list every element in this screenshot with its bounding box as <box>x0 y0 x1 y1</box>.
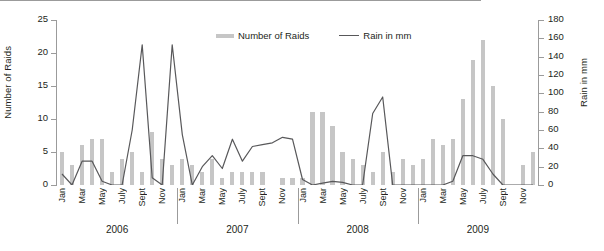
right-tick-label: 160 <box>548 31 574 42</box>
month-tick-label: Sept <box>498 188 508 207</box>
right-tick-label: 100 <box>548 86 574 97</box>
left-tick-label: 10 <box>20 112 48 123</box>
right-axis-title: Rain in mm <box>578 58 589 107</box>
month-tick-label: May <box>338 188 348 205</box>
month-tick-label: Mar <box>438 188 448 204</box>
line-series-rain-in-mm <box>57 20 538 185</box>
right-tick-label: 40 <box>548 141 574 152</box>
right-tick <box>539 130 544 131</box>
month-tick-label: July <box>358 188 368 204</box>
right-tick-label: 60 <box>548 123 574 134</box>
legend-label-rain-in-mm: Rain in mm <box>363 30 411 41</box>
right-tick <box>539 185 544 186</box>
right-axis-line <box>538 20 539 186</box>
right-tick-label: 20 <box>548 160 574 171</box>
year-group-label: 2009 <box>448 224 508 235</box>
right-tick <box>539 167 544 168</box>
left-axis-title: Number of Raids <box>2 46 13 119</box>
month-tick-label: May <box>217 188 227 205</box>
right-tick-label: 120 <box>548 68 574 79</box>
x-axis-line <box>0 0 481 1</box>
plot-area <box>57 20 538 185</box>
month-tick-label: Nov <box>518 188 528 204</box>
year-separator <box>177 188 178 224</box>
right-tick-label: 140 <box>548 50 574 61</box>
left-tick <box>51 86 56 87</box>
year-group-label: 2007 <box>207 224 267 235</box>
right-tick <box>539 75 544 76</box>
month-tick-label: Mar <box>197 188 207 204</box>
month-tick-label: Jan <box>177 188 187 203</box>
right-tick-label: 0 <box>548 178 574 189</box>
left-tick-label: 0 <box>20 178 48 189</box>
month-tick-label: July <box>478 188 488 204</box>
month-tick-label: Nov <box>157 188 167 204</box>
month-tick-label: Sept <box>378 188 388 207</box>
year-group-label: 2006 <box>87 224 147 235</box>
year-separator <box>298 188 299 224</box>
month-tick-label: Nov <box>398 188 408 204</box>
month-tick-label: Nov <box>277 188 287 204</box>
right-tick <box>539 112 544 113</box>
year-group-label: 2008 <box>328 224 388 235</box>
month-tick-label: Sept <box>257 188 267 207</box>
year-separator <box>418 188 419 224</box>
right-tick <box>539 93 544 94</box>
right-tick <box>539 148 544 149</box>
month-tick-label: Jan <box>298 188 308 203</box>
right-tick <box>539 38 544 39</box>
right-tick <box>539 20 544 21</box>
month-tick-label: May <box>97 188 107 205</box>
legend-item-rain-in-mm: Rain in mm <box>339 30 411 41</box>
left-tick-label: 15 <box>20 79 48 90</box>
left-tick-label: 5 <box>20 145 48 156</box>
month-tick-label: Jan <box>57 188 67 203</box>
right-tick <box>539 57 544 58</box>
left-tick <box>51 20 56 21</box>
legend-label-number-of-raids: Number of Raids <box>238 30 309 41</box>
bar-swatch-icon <box>216 34 234 38</box>
month-tick-label: Mar <box>318 188 328 204</box>
left-tick-label: 25 <box>20 13 48 24</box>
line-swatch-icon <box>339 35 359 36</box>
right-tick-label: 80 <box>548 105 574 116</box>
left-tick <box>51 119 56 120</box>
left-tick <box>51 53 56 54</box>
left-tick-label: 20 <box>20 46 48 57</box>
month-tick-label: Mar <box>77 188 87 204</box>
month-tick-label: May <box>458 188 468 205</box>
rain-raids-combo-chart: Number of Raids Rain in mm 0510152025 02… <box>0 0 604 251</box>
left-tick <box>51 152 56 153</box>
chart-legend: Number of Raids Rain in mm <box>216 30 411 41</box>
right-tick-label: 180 <box>548 13 574 24</box>
month-tick-label: July <box>237 188 247 204</box>
month-tick-label: Sept <box>137 188 147 207</box>
month-tick-label: July <box>117 188 127 204</box>
legend-item-number-of-raids: Number of Raids <box>216 30 309 41</box>
left-tick <box>51 185 56 186</box>
month-tick-label: Jan <box>418 188 428 203</box>
